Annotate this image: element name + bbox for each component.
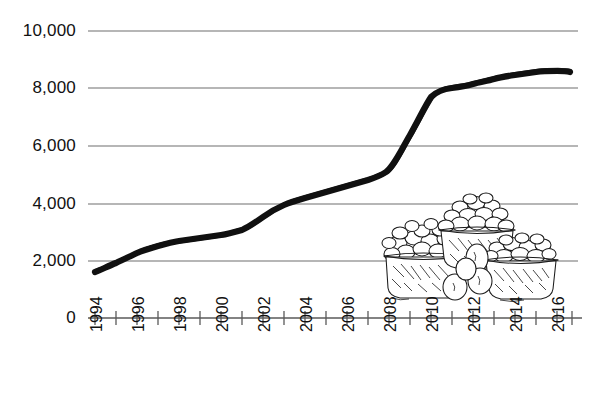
x-tick-label: 2004 — [298, 296, 316, 332]
x-tick-label: 2008 — [382, 296, 400, 332]
x-tick-label: 2000 — [214, 296, 232, 332]
x-tick-label: 1996 — [130, 296, 148, 332]
x-tick-label: 1998 — [172, 296, 190, 332]
chart-plot-area — [0, 0, 605, 399]
chart-container: 10,000 8,000 6,000 4,000 2,000 0 — [0, 0, 605, 399]
x-tick-label: 2016 — [550, 296, 568, 332]
x-tick-label: 2010 — [424, 296, 442, 332]
x-tick-label: 2002 — [256, 296, 274, 332]
x-tick-label: 2012 — [466, 296, 484, 332]
x-tick-label: 1994 — [88, 296, 106, 332]
x-tick-label: 2006 — [340, 296, 358, 332]
x-tick-label: 2014 — [508, 296, 526, 332]
potato-baskets-illustration — [382, 193, 558, 302]
